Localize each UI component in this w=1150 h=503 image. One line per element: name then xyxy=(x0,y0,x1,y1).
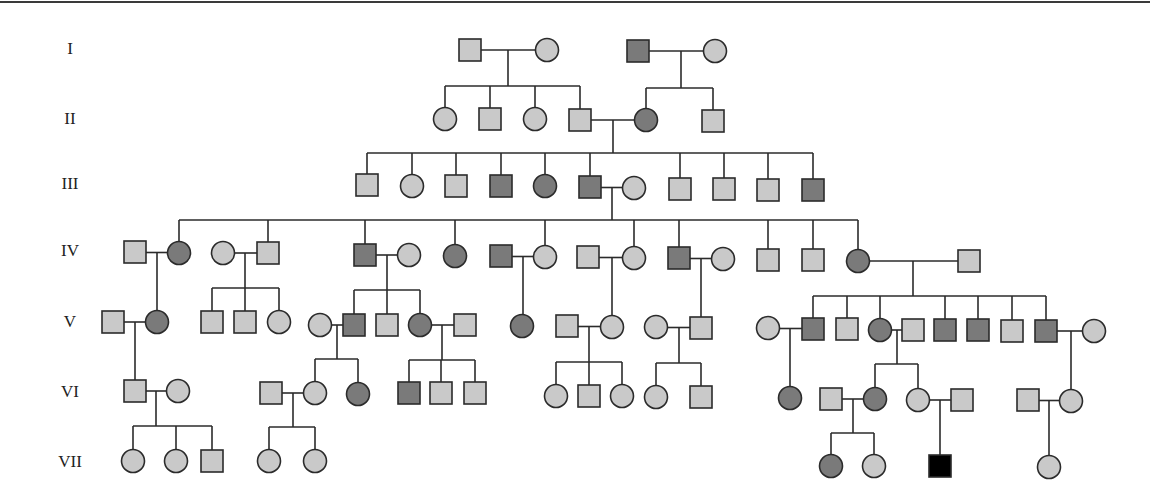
female-affected-grey-symbol xyxy=(409,314,432,337)
female-affected-grey-symbol xyxy=(820,455,843,478)
female-unaffected-symbol xyxy=(623,177,646,200)
male-affected-grey-symbol xyxy=(802,318,824,340)
male-unaffected-symbol xyxy=(757,179,779,201)
male-unaffected-symbol xyxy=(445,175,467,197)
male-affected-grey-symbol xyxy=(967,319,989,341)
female-unaffected-symbol xyxy=(611,385,634,408)
male-affected-grey-symbol xyxy=(802,179,824,201)
male-unaffected-symbol xyxy=(578,385,600,407)
female-unaffected-symbol xyxy=(268,311,291,334)
male-affected-grey-symbol xyxy=(934,319,956,341)
male-unaffected-symbol xyxy=(802,249,824,271)
male-unaffected-symbol xyxy=(356,174,378,196)
male-unaffected-symbol xyxy=(459,39,481,61)
female-affected-grey-symbol xyxy=(864,388,887,411)
female-affected-grey-symbol xyxy=(168,242,191,265)
male-unaffected-symbol xyxy=(836,318,858,340)
male-affected-grey-symbol xyxy=(343,314,365,336)
female-unaffected-symbol xyxy=(545,385,568,408)
female-affected-grey-symbol xyxy=(511,315,534,338)
female-unaffected-symbol xyxy=(536,39,559,62)
male-unaffected-symbol xyxy=(569,109,591,131)
female-unaffected-symbol xyxy=(401,175,424,198)
male-unaffected-symbol xyxy=(951,389,973,411)
female-unaffected-symbol xyxy=(304,382,327,405)
male-affected-grey-symbol xyxy=(627,40,649,62)
female-affected-grey-symbol xyxy=(347,383,370,406)
female-unaffected-symbol xyxy=(1038,456,1061,479)
male-unaffected-symbol xyxy=(690,317,712,339)
female-unaffected-symbol xyxy=(645,386,668,409)
male-unaffected-symbol xyxy=(902,319,924,341)
female-affected-grey-symbol xyxy=(847,250,870,273)
female-unaffected-symbol xyxy=(534,246,557,269)
male-unaffected-symbol xyxy=(820,388,842,410)
male-unaffected-symbol xyxy=(201,311,223,333)
male-unaffected-symbol xyxy=(577,246,599,268)
male-affected-grey-symbol xyxy=(579,176,601,198)
male-unaffected-symbol xyxy=(124,380,146,402)
male-unaffected-symbol xyxy=(376,314,398,336)
female-affected-grey-symbol xyxy=(444,245,467,268)
female-affected-grey-symbol xyxy=(779,387,802,410)
male-affected-black-symbol xyxy=(929,455,951,477)
female-affected-grey-symbol xyxy=(146,311,169,334)
male-unaffected-symbol xyxy=(124,241,146,263)
female-unaffected-symbol xyxy=(1060,390,1083,413)
female-unaffected-symbol xyxy=(863,455,886,478)
male-affected-grey-symbol xyxy=(668,247,690,269)
female-unaffected-symbol xyxy=(309,314,332,337)
female-unaffected-symbol xyxy=(1083,320,1106,343)
male-unaffected-symbol xyxy=(1001,320,1023,342)
male-unaffected-symbol xyxy=(702,110,724,132)
male-affected-grey-symbol xyxy=(1035,320,1057,342)
female-unaffected-symbol xyxy=(623,247,646,270)
female-unaffected-symbol xyxy=(704,40,727,63)
female-unaffected-symbol xyxy=(524,108,547,131)
male-unaffected-symbol xyxy=(690,386,712,408)
male-affected-grey-symbol xyxy=(354,244,376,266)
male-unaffected-symbol xyxy=(430,382,452,404)
female-unaffected-symbol xyxy=(258,450,281,473)
male-unaffected-symbol xyxy=(1017,389,1039,411)
female-affected-grey-symbol xyxy=(534,175,557,198)
male-unaffected-symbol xyxy=(958,250,980,272)
female-unaffected-symbol xyxy=(757,317,780,340)
male-unaffected-symbol xyxy=(669,178,691,200)
female-unaffected-symbol xyxy=(434,108,457,131)
male-unaffected-symbol xyxy=(556,315,578,337)
female-unaffected-symbol xyxy=(122,450,145,473)
individual-symbols xyxy=(102,39,1106,479)
male-unaffected-symbol xyxy=(464,382,486,404)
male-unaffected-symbol xyxy=(479,108,501,130)
female-affected-grey-symbol xyxy=(635,109,658,132)
female-unaffected-symbol xyxy=(167,380,190,403)
male-unaffected-symbol xyxy=(260,382,282,404)
male-unaffected-symbol xyxy=(102,311,124,333)
male-unaffected-symbol xyxy=(454,314,476,336)
male-affected-grey-symbol xyxy=(398,382,420,404)
male-unaffected-symbol xyxy=(257,242,279,264)
female-unaffected-symbol xyxy=(601,316,624,339)
female-unaffected-symbol xyxy=(212,242,235,265)
female-unaffected-symbol xyxy=(304,450,327,473)
male-affected-grey-symbol xyxy=(490,245,512,267)
female-unaffected-symbol xyxy=(165,450,188,473)
male-unaffected-symbol xyxy=(201,450,223,472)
female-unaffected-symbol xyxy=(712,248,735,271)
male-unaffected-symbol xyxy=(713,178,735,200)
male-unaffected-symbol xyxy=(234,311,256,333)
male-unaffected-symbol xyxy=(757,249,779,271)
female-unaffected-symbol xyxy=(645,316,668,339)
female-unaffected-symbol xyxy=(907,389,930,412)
female-affected-grey-symbol xyxy=(869,319,892,342)
pedigree-chart xyxy=(0,0,1150,503)
male-affected-grey-symbol xyxy=(490,175,512,197)
female-unaffected-symbol xyxy=(398,244,421,267)
